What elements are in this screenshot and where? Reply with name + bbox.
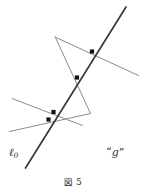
pencil-label-g: “g” [106, 147, 124, 158]
intersection-point-middle [75, 75, 79, 79]
figure-container: ℓ0 “g” 図5 [0, 0, 146, 195]
pencil-label-symbol: g [112, 146, 119, 159]
line-label-l0: ℓ0 [9, 147, 18, 159]
intersection-point-lower-lower [46, 117, 50, 121]
line-label-l0-subscript: 0 [14, 151, 19, 160]
caption-number: 5 [76, 177, 81, 187]
caption-symbol: 図 [64, 177, 73, 187]
pencil-label-close-quote: ” [119, 146, 125, 159]
intersection-point-lower-upper [51, 110, 55, 114]
intersection-point-upper [90, 49, 94, 53]
figure-caption: 図5 [0, 178, 146, 187]
